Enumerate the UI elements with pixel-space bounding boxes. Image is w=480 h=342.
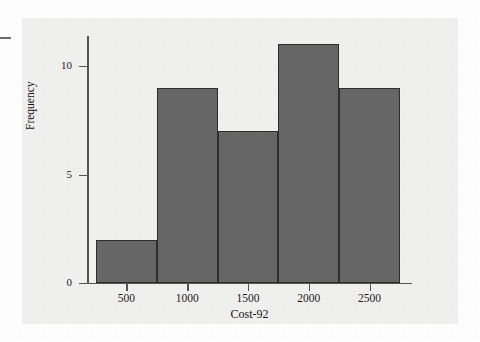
x-tick-mark [126,283,127,291]
y-tick-mark [79,175,88,176]
x-axis-line [87,283,412,285]
histogram-bar [157,88,218,283]
scanned-page: 0 5 10 500 1000 1500 2000 2500 Cost-92 F… [0,0,480,342]
y-tick-label-text: 5 [48,168,72,180]
y-tick-mark [79,66,88,67]
x-tick-label-1500: 1500 [218,292,278,304]
x-axis-title: Cost-92 [87,307,412,322]
x-tick-mark [309,283,310,291]
y-tick-label-text: 0 [48,276,72,288]
histogram-bar [339,88,400,283]
histogram-bar [96,240,157,283]
histogram-bar [278,44,339,283]
x-tick-mark [248,283,249,291]
y-tick-label-text: 10 [48,59,72,71]
x-tick-label-500: 500 [96,292,156,304]
x-tick-label-2000: 2000 [279,292,339,304]
histogram-bar [218,131,279,283]
x-tick-mark [370,283,371,291]
y-axis-title: Frequency [24,81,36,130]
x-tick-label-2500: 2500 [340,292,400,304]
y-tick-mark [79,283,88,284]
x-tick-label-1000: 1000 [157,292,217,304]
histogram-plot: 0 5 10 500 1000 1500 2000 2500 Cost-92 F… [0,0,480,342]
x-tick-mark [187,283,188,291]
y-axis-line [87,36,89,284]
